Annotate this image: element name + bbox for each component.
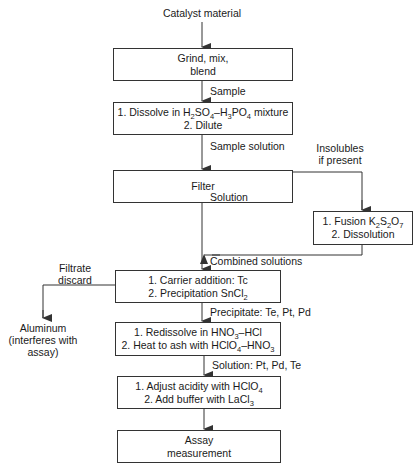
step-redissolve-box: 1. Redissolve in HNO3–HCl 2. Heat to ash… <box>115 322 281 356</box>
step-grind-box: Grind, mix, blend <box>113 48 293 81</box>
edge-label-combined-solutions: Combined solutions <box>210 255 302 267</box>
edge-label-line: if present <box>300 154 380 166</box>
step-filter-box: Filter <box>113 170 293 203</box>
edge-label-line: Filtrate <box>45 262 105 274</box>
step-line: 2. Dissolution <box>331 228 394 241</box>
edge-label-solution-pt-pd-te: Solution: Pt, Pd, Te <box>212 359 301 371</box>
step-line: measurement <box>167 447 231 460</box>
start-label-catalyst-material: Catalyst material <box>140 7 264 19</box>
side-outcome-aluminum: Aluminum (interferes with assay) <box>0 322 86 358</box>
step-line: 1. Adjust acidity with HClO4 <box>135 380 262 393</box>
step-line: Assay <box>185 434 214 447</box>
step-line: 2. Dilute <box>184 119 223 132</box>
edge-label-line: discard <box>45 274 105 286</box>
outcome-line: (interferes with <box>0 334 86 346</box>
step-dissolve-box: 1. Dissolve in H2SO4–H3PO4 mixture 2. Di… <box>113 102 293 135</box>
step-line: Grind, mix, <box>178 52 229 65</box>
edge-label-filtrate-discard: Filtrate discard <box>45 262 105 286</box>
edge-label-line: Insolubles <box>300 142 380 154</box>
step-adjust-box: 1. Adjust acidity with HClO4 2. Add buff… <box>117 376 281 409</box>
step-carrier-box: 1. Carrier addition: Tc 2. Precipitation… <box>115 270 281 303</box>
step-line: blend <box>190 65 216 78</box>
edge-label-solution: Solution <box>210 191 248 203</box>
edge-label-precipitate: Precipitate: Te, Pt, Pd <box>210 306 311 318</box>
step-line: 1. Carrier addition: Tc <box>148 274 248 287</box>
outcome-line: Aluminum <box>0 322 86 334</box>
step-line: 2. Precipitation SnCl2 <box>148 287 247 300</box>
step-assay-box: Assay measurement <box>117 430 281 463</box>
edge-label-insolubles: Insolubles if present <box>300 142 380 166</box>
step-line: 1. Dissolve in H2SO4–H3PO4 mixture <box>118 106 289 119</box>
step-line: 2. Add buffer with LaCl3 <box>144 393 254 406</box>
step-line: 1. Fusion K2S2O7 <box>323 215 404 228</box>
edge-label-sample: Sample <box>210 85 246 97</box>
step-line: 1. Redissolve in HNO3–HCl <box>134 326 262 339</box>
outcome-line: assay) <box>0 346 86 358</box>
edge-label-sample-solution: Sample solution <box>210 140 285 152</box>
step-fusion-box: 1. Fusion K2S2O7 2. Dissolution <box>313 211 413 245</box>
step-line: 2. Heat to ash with HClO4–HNO3 <box>121 339 274 352</box>
